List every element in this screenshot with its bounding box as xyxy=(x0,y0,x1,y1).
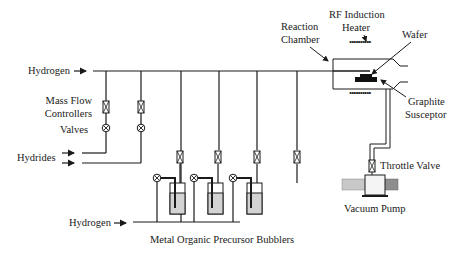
reaction-label-2: Chamber xyxy=(281,34,320,45)
reaction-label-1: Reaction xyxy=(281,21,319,32)
mass-flow-controller-icon xyxy=(138,101,144,113)
vacuum-pump xyxy=(342,175,398,197)
throttle-valve-icon xyxy=(369,160,375,172)
mass-flow-controller-icon xyxy=(177,151,183,163)
graphite-label-2: Susceptor xyxy=(405,109,447,120)
mass-flow-label-2: Controllers xyxy=(45,108,92,119)
graphite-label-1: Graphite xyxy=(408,96,445,107)
liquid-precursor xyxy=(247,193,262,214)
liquid-precursor xyxy=(208,193,223,214)
mass-flow-controller-icon xyxy=(215,151,221,163)
wafer xyxy=(360,74,372,77)
mass-flow-label-1: Mass Flow xyxy=(46,95,93,106)
hydrogen-inlet-top: Hydrogen xyxy=(28,65,86,76)
liquid-precursor xyxy=(170,193,185,214)
hydrogen-inlet-bottom: Hydrogen xyxy=(69,217,240,228)
valve-icon xyxy=(190,174,198,182)
vacuum-label: Vacuum Pump xyxy=(344,203,406,214)
valve-icon xyxy=(137,124,145,132)
wafer-label: Wafer xyxy=(402,29,428,40)
reaction-chamber: •••••••••• •••••••••• xyxy=(333,37,408,98)
exhaust-line xyxy=(370,89,390,166)
arrow-icon xyxy=(372,42,411,74)
valves-label: Valves xyxy=(60,124,88,135)
rf-label-2: Heater xyxy=(342,22,370,33)
rf-label-1: RF Induction xyxy=(329,9,385,20)
mass-flow-controller-icon xyxy=(254,151,260,163)
mocvd-system-diagram: Hydrogen Mass Flow Controllers Valves Hy… xyxy=(0,0,465,256)
valve-icon xyxy=(102,124,110,132)
arrow-icon xyxy=(310,47,328,61)
bubblers-label: Metal Organic Precursor Bubblers xyxy=(150,234,294,245)
mass-flow-controller-icon xyxy=(103,101,109,113)
rf-dots-top: •••••••••• xyxy=(349,37,371,47)
throttle-label: Throttle Valve xyxy=(380,160,441,171)
bubbler-2 xyxy=(190,71,223,222)
mass-flow-controller-icon xyxy=(294,151,300,163)
hydrogen-bottom-label: Hydrogen xyxy=(69,217,112,228)
hydrides-inlet: Hydrides xyxy=(17,152,74,163)
valve-icon xyxy=(153,174,161,182)
hydrogen-top-label: Hydrogen xyxy=(28,65,71,76)
valve-icon xyxy=(229,174,237,182)
bubbler-3 xyxy=(229,71,262,222)
rf-dots-bottom: •••••••••• xyxy=(349,88,371,98)
hydrides-label: Hydrides xyxy=(17,152,56,163)
bubbler-1 xyxy=(153,71,185,222)
graphite-susceptor xyxy=(355,77,377,82)
